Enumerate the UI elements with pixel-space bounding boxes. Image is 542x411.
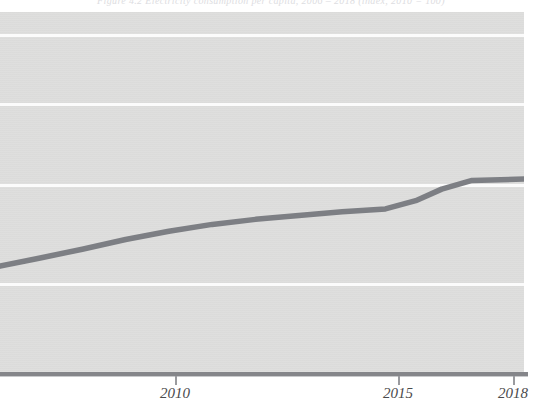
x-tick-label-2018: 2018 bbox=[498, 385, 528, 402]
x-tick-2015 bbox=[398, 376, 400, 385]
series-line-path bbox=[0, 179, 524, 266]
x-tick-label-2010: 2010 bbox=[160, 385, 190, 402]
plot-area bbox=[0, 12, 524, 372]
x-tick-2018 bbox=[513, 376, 515, 385]
chart-title: Figure 4.2 Electricity consumption per c… bbox=[0, 0, 542, 11]
chart-title-text: Figure 4.2 Electricity consumption per c… bbox=[97, 0, 445, 6]
x-tick-2010 bbox=[175, 376, 177, 385]
page-margin bbox=[524, 12, 542, 372]
chart-root: Figure 4.2 Electricity consumption per c… bbox=[0, 0, 542, 411]
x-axis-line-shadow bbox=[0, 376, 528, 377]
series-line-svg bbox=[0, 12, 524, 372]
x-tick-label-2015: 2015 bbox=[383, 385, 413, 402]
